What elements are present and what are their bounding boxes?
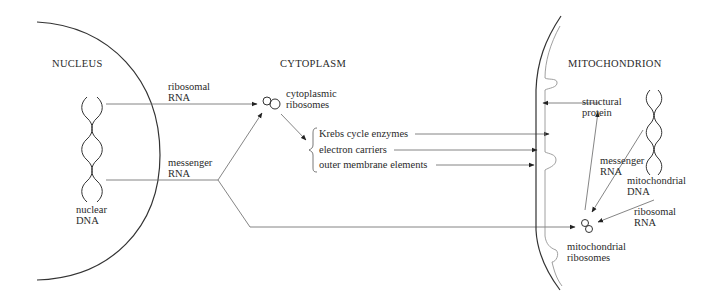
ribosomal-rna-label-2: RNA	[168, 92, 190, 104]
mito-dna-label-2: DNA	[627, 186, 650, 198]
messenger-rna-label-2: RNA	[168, 168, 190, 180]
products-bracket	[309, 128, 317, 172]
product-outer-membrane: outer membrane elements	[319, 159, 427, 171]
mito-dna-helix-icon	[646, 90, 662, 175]
mitochondrial-ribosomes-icon	[582, 220, 593, 233]
nuclear-dna-helix-icon	[82, 97, 103, 202]
structural-protein-label-2: protein	[582, 107, 612, 119]
nuclear-dna-label-2: DNA	[76, 215, 99, 227]
cytoplasm-title: CYTOPLASM	[280, 58, 346, 70]
mitochondrion-title: MITOCHONDRION	[568, 58, 662, 70]
mito-ribosomes-label-2: ribosomes	[567, 252, 610, 264]
product-electron-carriers: electron carriers	[319, 144, 387, 156]
cyto-ribosomes-label-2: ribosomes	[286, 99, 329, 111]
mito-rrna-label-2: RNA	[634, 217, 656, 229]
nucleus-title: NUCLEUS	[52, 58, 103, 70]
cytoplasmic-ribosomes-icon	[263, 97, 280, 109]
mito-mrna-label-2: RNA	[600, 166, 622, 178]
mito-inner-membrane	[545, 26, 562, 286]
product-krebs: Krebs cycle enzymes	[319, 128, 408, 140]
